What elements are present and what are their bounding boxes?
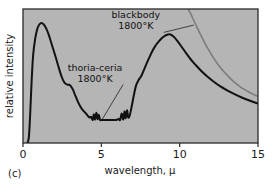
x-axis-tick-label: 0 xyxy=(20,148,27,161)
x-axis-title: wavelength, μ xyxy=(105,165,177,176)
y-axis-title: relative intensity xyxy=(4,34,15,118)
thoria-ceria-annotation-line2: 1800°K xyxy=(77,73,113,84)
blackbody-annotation-line1: blackbody xyxy=(111,9,160,20)
figure-panel-c: 051015 blackbody1800°Kthoria-ceria1800°K… xyxy=(0,0,273,189)
panel-label: (c) xyxy=(8,168,21,179)
x-axis-tick-label: 5 xyxy=(98,148,105,161)
x-axis-tick-label: 10 xyxy=(173,148,187,161)
x-axis-tick-label: 15 xyxy=(251,148,265,161)
chart-svg: 051015 blackbody1800°Kthoria-ceria1800°K… xyxy=(0,0,273,189)
blackbody-annotation-line2: 1800°K xyxy=(118,20,154,31)
thoria-ceria-annotation-line1: thoria-ceria xyxy=(68,62,123,73)
